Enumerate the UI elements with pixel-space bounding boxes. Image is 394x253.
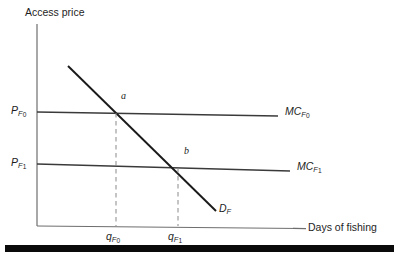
y-axis-title: Access price	[25, 7, 85, 18]
price-label-pf1-sub-num: 1	[23, 163, 27, 170]
curve-label-mc-f0: MCF0	[285, 106, 310, 117]
point-label-a: a	[121, 91, 126, 101]
price-label-pf1: PF1	[11, 157, 26, 168]
curve-label-mc-f1-sub-num: 1	[318, 167, 322, 174]
price-label-pf1-sub-letter: F	[18, 161, 23, 170]
price-label-pf0: PF0	[11, 105, 26, 116]
quantity-label-qf0-sub-num: 0	[117, 237, 121, 244]
figure-container: Access price Days of fishing PF0 PF1 qF0…	[0, 0, 394, 253]
curve-demand-df	[68, 66, 216, 211]
curve-label-demand-df-base: D	[219, 202, 227, 214]
price-label-pf1-base: P	[11, 156, 18, 168]
point-label-b: b	[184, 146, 189, 156]
price-label-pf0-base: P	[11, 104, 18, 116]
quantity-label-qf1-sub-num: 1	[179, 237, 183, 244]
quantity-label-qf1-sub-letter: F	[174, 235, 179, 244]
curve-label-mc-f1-base: MC	[297, 160, 313, 172]
diagram-canvas	[0, 0, 394, 253]
price-label-pf0-sub-num: 0	[23, 111, 27, 118]
x-axis-title: Days of fishing	[308, 222, 377, 233]
price-label-pf0-sub-letter: F	[18, 109, 23, 118]
curve-label-mc-f0-sub-num: 0	[306, 112, 310, 119]
curve-mc-f0	[37, 112, 278, 116]
curve-label-demand-df: DF	[219, 203, 231, 214]
footer-bar	[5, 245, 394, 252]
x-axis-line	[37, 226, 300, 229]
quantity-label-qf1: qF1	[168, 231, 182, 242]
curve-label-mc-f0-base: MC	[285, 105, 301, 117]
curve-label-mc-f1: MCF1	[297, 161, 322, 172]
curve-mc-f1	[37, 164, 290, 171]
curve-label-demand-df-sub-letter: F	[227, 207, 232, 216]
quantity-label-qf0-sub-letter: F	[112, 235, 117, 244]
quantity-label-qf0: qF0	[106, 231, 120, 242]
